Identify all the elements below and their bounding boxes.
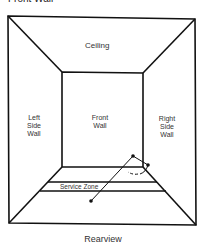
left-wall-text-1: Left	[22, 114, 46, 122]
edge-top-right	[143, 19, 195, 73]
front-wall-label: Front Wall	[88, 114, 112, 130]
service-zone-label: Service Zone	[60, 183, 98, 191]
side-wall-hit-dot	[146, 163, 150, 167]
front-wall-hit-dot	[131, 154, 135, 158]
right-wall-text-1: Right	[154, 115, 180, 123]
left-wall-text-3: Wall	[22, 130, 46, 138]
left-side-wall-label: Left Side Wall	[22, 114, 46, 138]
front-wall-text-2: Wall	[88, 122, 112, 130]
right-wall-text-3: Wall	[154, 131, 180, 139]
ceiling-label: Ceiling	[85, 42, 109, 50]
ball-start-dot	[89, 199, 93, 203]
front-wall-text-1: Front	[88, 114, 112, 122]
edge-top-left	[8, 16, 62, 72]
right-wall-text-2: Side	[154, 123, 180, 131]
figure-caption: Rearview	[0, 234, 206, 244]
right-side-wall-label: Right Side Wall	[154, 115, 180, 139]
left-wall-text-2: Side	[22, 122, 46, 130]
ball-path	[91, 156, 148, 201]
edge-bottom-left	[9, 167, 62, 223]
edge-bottom-right	[143, 167, 196, 225]
